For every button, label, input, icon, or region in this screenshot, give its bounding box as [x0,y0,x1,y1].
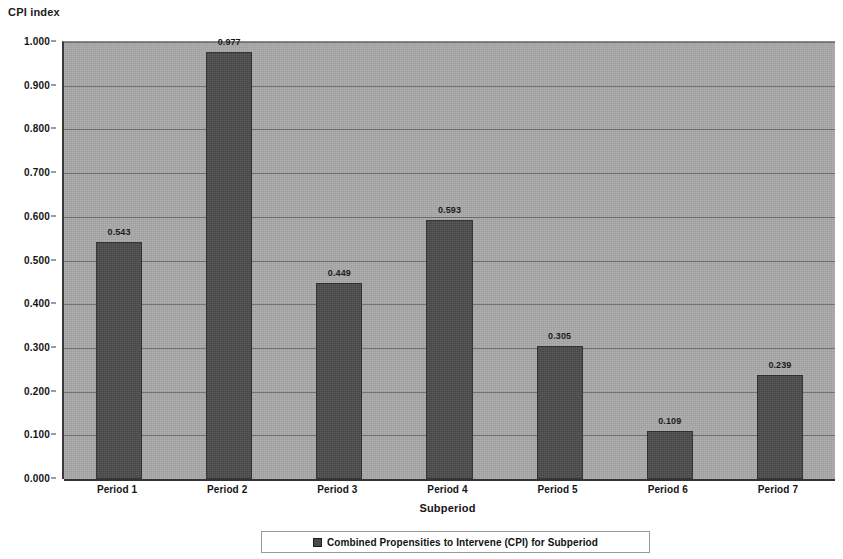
x-axis-tick-label: Period 3 [282,484,392,495]
y-axis-tick-label: 0.600 [24,210,50,221]
y-axis-tick-label: 0.000 [24,473,50,484]
x-axis-tick-label: Period 6 [613,484,723,495]
y-axis-tick-mark [51,259,56,260]
bar-slot: 0.305 [505,42,615,479]
x-axis-tick-labels: Period 1Period 2Period 3Period 4Period 5… [62,484,833,495]
bar[interactable]: 0.543 [96,242,142,479]
y-axis-tick-labels: 0.0000.1000.2000.3000.4000.5000.6000.700… [0,41,56,478]
y-axis-title: CPI index [8,6,60,18]
y-axis-tick-label: 0.500 [24,254,50,265]
y-axis-tick-label: 0.300 [24,341,50,352]
y-axis-tick-mark [51,434,56,435]
y-axis-tick-label: 0.800 [24,123,50,134]
x-axis-tick-label: Period 5 [503,484,613,495]
x-axis-tick-label: Period 2 [172,484,282,495]
bar-slot: 0.593 [394,42,504,479]
chart-legend: Combined Propensities to Intervene (CPI)… [261,531,650,553]
bar-value-label: 0.305 [548,331,571,341]
bar-slot: 0.239 [725,42,835,479]
y-axis-tick-mark [51,41,56,42]
bar[interactable]: 0.593 [426,220,472,479]
bar[interactable]: 0.109 [647,431,693,479]
gridline [64,479,835,481]
bar-series: 0.5430.9770.4490.5930.3050.1090.239 [64,42,835,479]
y-axis-tick-label: 0.700 [24,167,50,178]
y-axis-tick-label: 0.900 [24,79,50,90]
filled-square-icon [313,538,322,547]
y-axis-tick-mark [51,346,56,347]
bar[interactable]: 0.977 [206,52,252,479]
y-axis-tick-label: 1.000 [24,36,50,47]
legend-item-label: Combined Propensities to Intervene (CPI)… [327,537,598,548]
x-axis-tick-label: Period 1 [62,484,172,495]
bar-value-label: 0.593 [438,205,461,215]
y-axis-tick-mark [51,84,56,85]
y-axis-tick-label: 0.200 [24,385,50,396]
y-axis-tick-mark [51,128,56,129]
bar-value-label: 0.109 [658,416,681,426]
y-axis-tick-mark [51,390,56,391]
bar-slot: 0.977 [174,42,284,479]
bar-slot: 0.109 [615,42,725,479]
bar-value-label: 0.239 [768,360,791,370]
x-axis-tick-label: Period 7 [723,484,833,495]
bar-value-label: 0.977 [218,37,241,47]
bar-slot: 0.449 [284,42,394,479]
x-axis-title: Subperiod [62,502,833,514]
bar[interactable]: 0.239 [757,375,803,479]
bar[interactable]: 0.305 [537,346,583,479]
y-axis-tick-mark [51,478,56,479]
y-axis-tick-mark [51,303,56,304]
y-axis-tick-label: 0.100 [24,429,50,440]
y-axis-tick-mark [51,172,56,173]
bar-value-label: 0.449 [328,268,351,278]
bar-value-label: 0.543 [108,227,131,237]
y-axis-tick-mark [51,215,56,216]
plot-area: 0.5430.9770.4490.5930.3050.1090.239 [62,41,835,479]
bar-slot: 0.543 [64,42,174,479]
y-axis-tick-label: 0.400 [24,298,50,309]
bar[interactable]: 0.449 [316,283,362,479]
x-axis-tick-label: Period 4 [392,484,502,495]
